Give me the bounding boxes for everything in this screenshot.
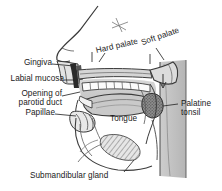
label-tonsil: tonsil (181, 108, 200, 118)
label-gingiva: Gingiva (6, 58, 52, 68)
label-tongue: Tongue (110, 114, 137, 124)
label-parotid-duct: parotid duct (2, 98, 62, 108)
palatine-tonsil (142, 93, 163, 118)
anatomy-figure: Gingiva Labial mucosa Opening of parotid… (0, 0, 222, 191)
label-papillae: Papillae (8, 108, 55, 118)
label-submandibular-gland: Submandibular gland (30, 171, 108, 181)
label-labial-mucosa: Labial mucosa (0, 74, 64, 84)
